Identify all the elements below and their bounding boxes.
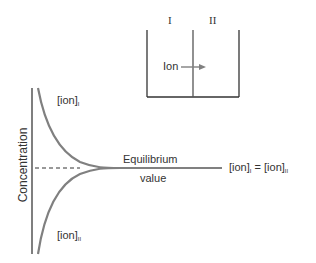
compartment-label-I: I	[168, 14, 172, 26]
diagram-canvas	[0, 0, 316, 263]
compartment-label-II: II	[209, 14, 216, 26]
eq-right-sub: II	[285, 168, 288, 174]
curve-upper-label: [ion]I	[57, 94, 79, 107]
curve-lower-text: [ion]	[57, 229, 78, 241]
eq-right: [ion]	[264, 161, 285, 173]
curve-lower-label: [ion]II	[57, 229, 81, 242]
curve-upper-text: [ion]	[57, 94, 78, 106]
curve-upper-sub: I	[78, 101, 80, 107]
ion-label: Ion	[163, 60, 178, 72]
equilibrium-value-label: value	[140, 172, 166, 184]
eq-left: [ion]	[229, 161, 250, 173]
y-axis-label: Concentration	[16, 120, 30, 210]
eq-sign: =	[251, 161, 264, 173]
equilibrium-label: Equilibrium	[123, 153, 177, 165]
equality-label: [ion]I = [ion]II	[229, 161, 288, 174]
curve-lower-sub: II	[78, 236, 81, 242]
